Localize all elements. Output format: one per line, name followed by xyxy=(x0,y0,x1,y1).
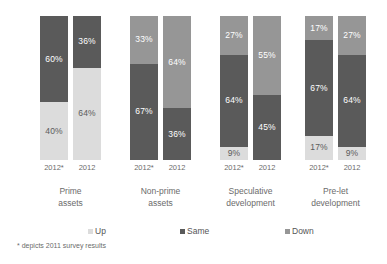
category-label: Pre-letdevelopment xyxy=(289,186,382,209)
stacked-bar[interactable]: 17%67%17% xyxy=(305,16,333,160)
bar-segment-up[interactable]: 64% xyxy=(73,68,101,160)
segment-value-label: 64% xyxy=(343,96,360,105)
segment-value-label: 60% xyxy=(45,55,62,64)
bar-segment-same[interactable]: 67% xyxy=(130,64,158,160)
category-label: Primeassets xyxy=(24,186,117,209)
segment-value-label: 64% xyxy=(168,58,185,67)
stacked-bar[interactable]: 27%64%9% xyxy=(220,16,248,160)
segment-value-label: 36% xyxy=(168,130,185,139)
bar-segment-same[interactable]: 64% xyxy=(220,55,248,147)
bar-segment-up[interactable]: 17% xyxy=(305,136,333,160)
bar-segment-down[interactable]: 27% xyxy=(338,16,366,55)
category-label-line1: Speculative xyxy=(204,186,297,198)
category-label-line1: Prime xyxy=(24,186,117,198)
category-label-line1: Pre-let xyxy=(289,186,382,198)
segment-value-label: 17% xyxy=(310,24,327,33)
bar-segment-down[interactable]: 27% xyxy=(220,16,248,55)
bar-segment-down[interactable]: 64% xyxy=(163,16,191,108)
stacked-bar-chart: 60%40%36%64%33%67%64%36%27%64%9%55%45%17… xyxy=(0,0,387,264)
legend-label: Up xyxy=(95,226,106,237)
bar-segment-down[interactable]: 55% xyxy=(253,16,281,95)
legend-swatch-icon xyxy=(180,229,185,234)
bar-segment-same[interactable]: 67% xyxy=(305,40,333,136)
stacked-bar[interactable]: 64%36% xyxy=(163,16,191,160)
category-label-line2: development xyxy=(289,198,382,210)
chart-footnote: * depicts 2011 survey results xyxy=(17,241,106,250)
legend-label: Down xyxy=(292,226,314,237)
segment-value-label: 17% xyxy=(310,143,327,152)
segment-value-label: 67% xyxy=(310,84,327,93)
bar-segment-up[interactable]: 9% xyxy=(338,147,366,160)
x-axis-tick-label: 2012* xyxy=(40,163,68,173)
stacked-bar[interactable]: 27%64%9% xyxy=(338,16,366,160)
segment-value-label: 9% xyxy=(228,149,241,158)
x-axis-tick-label: 2012 xyxy=(253,163,281,173)
segment-value-label: 33% xyxy=(135,35,152,44)
segment-value-label: 9% xyxy=(346,149,359,158)
segment-value-label: 64% xyxy=(78,109,95,118)
segment-value-label: 40% xyxy=(45,127,62,136)
bar-segment-up[interactable]: 9% xyxy=(220,147,248,160)
x-axis-tick-label: 2012 xyxy=(73,163,101,173)
stacked-bar[interactable]: 36%64% xyxy=(73,16,101,160)
category-label: Non-primeassets xyxy=(114,186,207,209)
bar-segment-same[interactable]: 45% xyxy=(253,95,281,160)
legend-swatch-icon xyxy=(285,229,290,234)
stacked-bar[interactable]: 60%40% xyxy=(40,16,68,160)
legend-label: Same xyxy=(187,226,209,237)
segment-value-label: 27% xyxy=(343,31,360,40)
category-label-line1: Non-prime xyxy=(114,186,207,198)
bar-segment-same[interactable]: 64% xyxy=(338,55,366,147)
segment-value-label: 64% xyxy=(225,96,242,105)
bar-segment-up[interactable]: 40% xyxy=(40,102,68,160)
bar-segment-down[interactable]: 17% xyxy=(305,16,333,40)
bar-segment-down[interactable]: 33% xyxy=(130,16,158,64)
category-label-line2: assets xyxy=(114,198,207,210)
category-label-line2: development xyxy=(204,198,297,210)
plot-area: 60%40%36%64%33%67%64%36%27%64%9%55%45%17… xyxy=(0,16,387,160)
x-axis-tick-label: 2012 xyxy=(163,163,191,173)
category-label-line2: assets xyxy=(24,198,117,210)
legend-item[interactable]: Up xyxy=(88,226,106,237)
segment-value-label: 55% xyxy=(258,51,275,60)
legend-swatch-icon xyxy=(88,229,93,234)
x-axis-tick-label: 2012 xyxy=(338,163,366,173)
segment-value-label: 36% xyxy=(78,37,95,46)
x-axis-tick-label: 2012* xyxy=(220,163,248,173)
legend-item[interactable]: Down xyxy=(285,226,314,237)
segment-value-label: 45% xyxy=(258,123,275,132)
segment-value-label: 27% xyxy=(225,31,242,40)
chart-legend: UpSameDown xyxy=(0,226,387,240)
stacked-bar[interactable]: 33%67% xyxy=(130,16,158,160)
x-axis-tick-label: 2012* xyxy=(305,163,333,173)
bar-segment-same[interactable]: 36% xyxy=(73,16,101,68)
legend-item[interactable]: Same xyxy=(180,226,209,237)
bar-segment-same[interactable]: 60% xyxy=(40,16,68,102)
x-axis-tick-label: 2012* xyxy=(130,163,158,173)
category-label: Speculativedevelopment xyxy=(204,186,297,209)
bar-segment-same[interactable]: 36% xyxy=(163,108,191,160)
segment-value-label: 67% xyxy=(135,107,152,116)
stacked-bar[interactable]: 55%45% xyxy=(253,16,281,160)
